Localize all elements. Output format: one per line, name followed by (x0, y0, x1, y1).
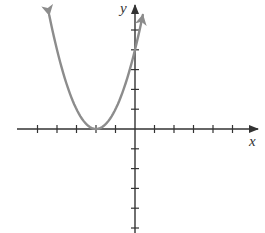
y-axis-label: y (118, 0, 127, 16)
x-axis-label: x (248, 133, 256, 149)
parabola-curve (49, 15, 143, 129)
parabola-graph: x y (0, 0, 265, 233)
